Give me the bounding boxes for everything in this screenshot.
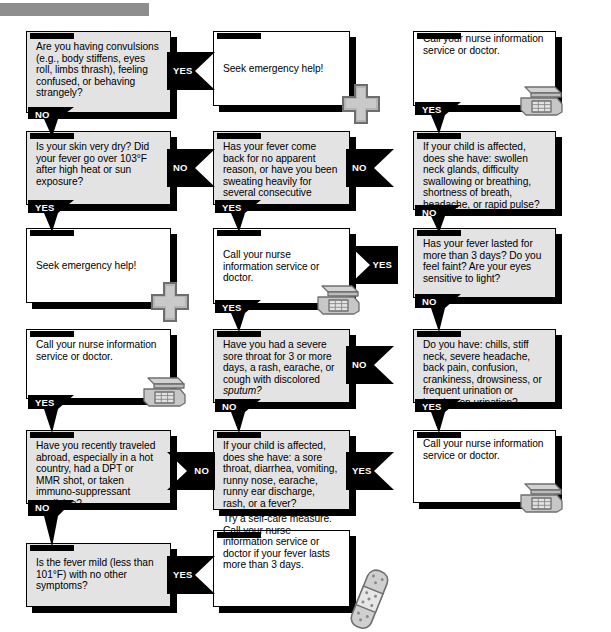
connector-q7-a6-yes: YES xyxy=(415,399,461,433)
node-q7[interactable]: Do you have: chills, stiff neck, severe … xyxy=(413,329,556,403)
connector-q9-a6-yes: YES xyxy=(346,452,396,490)
connector-label: NO xyxy=(352,360,367,370)
node-text: Seek emergency help! xyxy=(36,260,159,272)
connector-q5-q7-no: NO xyxy=(415,294,461,332)
connector-q8-q10-no: NO xyxy=(28,500,74,547)
connector-label: NO xyxy=(194,466,209,476)
node-text-main: Have you had a severe sore throat for 3 … xyxy=(223,339,334,385)
connector-q8-q9-no: NO xyxy=(165,452,215,490)
node-text: Call your nurse information service or d… xyxy=(36,339,159,362)
node-text-italic: sputum? xyxy=(223,385,262,396)
telephone-icon xyxy=(513,481,565,515)
node-edge-right xyxy=(556,137,562,216)
node-q5[interactable]: Has your fever lasted for more than 3 da… xyxy=(413,228,556,298)
connector-label: YES xyxy=(173,570,193,580)
node-edge-right xyxy=(556,234,562,304)
connector-q10-a7-yes: YES xyxy=(167,556,217,594)
connector-label: YES xyxy=(173,66,193,76)
node-stub xyxy=(217,133,261,139)
connector-a4-q6-yes: YES xyxy=(215,300,261,332)
node-edge-bottom xyxy=(32,607,177,613)
node-text: Have you had a severe sore throat for 3 … xyxy=(223,339,338,397)
connector-label: NO xyxy=(422,208,437,218)
node-text: If your child is affected, does she have… xyxy=(423,141,544,211)
flowchart-canvas: Are you having convulsions (e.g., body s… xyxy=(0,0,611,632)
connector-q6-q9-no: NO xyxy=(215,399,261,433)
node-text: Call your nurse information service or d… xyxy=(423,33,544,56)
node-a1[interactable]: Seek emergency help! xyxy=(213,31,350,106)
connector-label: NO xyxy=(352,163,367,173)
connector-q1-a1-yes: YES xyxy=(167,52,217,90)
node-q6[interactable]: Have you had a severe sore throat for 3 … xyxy=(213,329,350,403)
node-q9[interactable]: If your child is affected, does she have… xyxy=(213,430,350,510)
node-q10[interactable]: Is the fever mild (less than 101°F) with… xyxy=(26,543,171,607)
connector-q3-q4-no: NO xyxy=(346,149,396,187)
connector-label: YES xyxy=(222,303,242,313)
connector-label: YES xyxy=(222,203,242,213)
telephone-icon xyxy=(513,84,565,118)
node-q3[interactable]: Has your fever come back for no apparent… xyxy=(213,131,350,205)
connector-q2-a3-yes: YES xyxy=(28,200,74,232)
node-edge-right xyxy=(556,335,562,409)
connector-label: YES xyxy=(422,402,442,412)
node-edge-bottom xyxy=(219,607,356,613)
connector-q1-q2-no: NO xyxy=(28,107,74,137)
connector-label: YES xyxy=(422,105,442,115)
connector-q5-a4-yes: YES xyxy=(348,246,398,284)
connector-label: NO xyxy=(422,297,437,307)
medical-cross-icon xyxy=(150,281,190,323)
connector-label: YES xyxy=(352,466,372,476)
connector-a2-q4-yes: YES xyxy=(415,102,461,134)
node-text: Has your fever lasted for more than 3 da… xyxy=(423,238,544,284)
node-text: If your child is affected, does she have… xyxy=(223,440,338,510)
bandage-icon xyxy=(342,567,396,631)
connector-label: YES xyxy=(35,203,55,213)
node-edge-bottom xyxy=(219,106,356,112)
connector-label: NO xyxy=(222,402,237,412)
node-text: Call your nurse information service or d… xyxy=(223,249,338,284)
connector-q6-q7-no: NO xyxy=(346,346,396,384)
node-text: Is the fever mild (less than 101°F) with… xyxy=(36,557,159,592)
node-a7[interactable]: Try a self-care measure. Call your nurse… xyxy=(213,530,350,607)
node-stub xyxy=(217,33,261,39)
node-text: Call your nurse information service or d… xyxy=(423,438,544,461)
connector-label: NO xyxy=(35,110,50,120)
connector-label: YES xyxy=(35,398,55,408)
connector-q4-q5-no: NO xyxy=(415,205,461,233)
node-text: Seek emergency help! xyxy=(223,63,338,75)
connector-q3-a4-yes: YES xyxy=(215,200,261,232)
connector-q2-q3-no: NO xyxy=(167,149,217,187)
node-q2[interactable]: Is your skin very dry? Did your fever go… xyxy=(26,131,171,205)
node-stub xyxy=(30,33,74,39)
telephone-icon xyxy=(310,283,362,317)
node-q8[interactable]: Have you recently traveled abroad, espec… xyxy=(26,430,171,504)
node-text: Are you having convulsions (e.g., body s… xyxy=(36,41,159,99)
node-stub xyxy=(30,331,74,337)
node-text: Try a self-care measure. Call your nurse… xyxy=(223,513,338,571)
telephone-icon xyxy=(136,375,188,409)
node-q1[interactable]: Are you having convulsions (e.g., body s… xyxy=(26,31,171,113)
connector-a5-q8-yes: YES xyxy=(28,395,74,433)
node-q4[interactable]: If your child is affected, does she have… xyxy=(413,131,556,210)
connector-label: NO xyxy=(35,503,50,513)
connector-label: NO xyxy=(173,163,188,173)
header-bar xyxy=(0,3,149,16)
medical-cross-icon xyxy=(341,83,381,125)
connector-label: YES xyxy=(372,260,392,270)
node-text: Is your skin very dry? Did your fever go… xyxy=(36,141,159,187)
